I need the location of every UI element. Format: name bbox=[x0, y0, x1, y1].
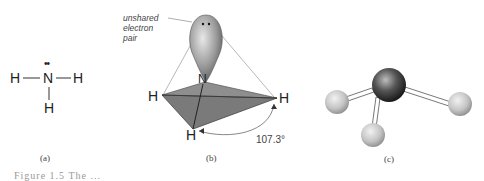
pyramid-h-bottom: H bbox=[186, 127, 196, 143]
panel-c-label: (c) bbox=[384, 154, 394, 164]
lewis-n-center: N bbox=[43, 70, 53, 86]
unshared-electron-pair-label: unshared electron pair bbox=[123, 13, 158, 43]
annotation-line-3: pair bbox=[123, 33, 158, 43]
annotation-line-1: unshared bbox=[123, 13, 158, 23]
panel-b-label: (b) bbox=[206, 153, 217, 163]
lone-pair-dots: •• bbox=[44, 58, 49, 69]
bond-angle-label: 107.3° bbox=[256, 134, 285, 145]
figure-graphics bbox=[0, 0, 484, 181]
pyramid-h-right: H bbox=[279, 90, 289, 106]
pyramid-diagram bbox=[162, 15, 277, 135]
ball-and-stick-model bbox=[325, 68, 472, 147]
pyramid-n: N bbox=[198, 72, 207, 86]
lewis-h-right: H bbox=[73, 70, 83, 86]
pyramid-h-left: H bbox=[148, 88, 158, 104]
annotation-line-2: electron bbox=[123, 23, 158, 33]
figure-caption: Figure 1.5 The ... bbox=[14, 170, 101, 181]
panel-a-label: (a) bbox=[40, 153, 50, 163]
lewis-h-left: H bbox=[10, 70, 20, 86]
lewis-h-bottom: H bbox=[44, 100, 54, 116]
